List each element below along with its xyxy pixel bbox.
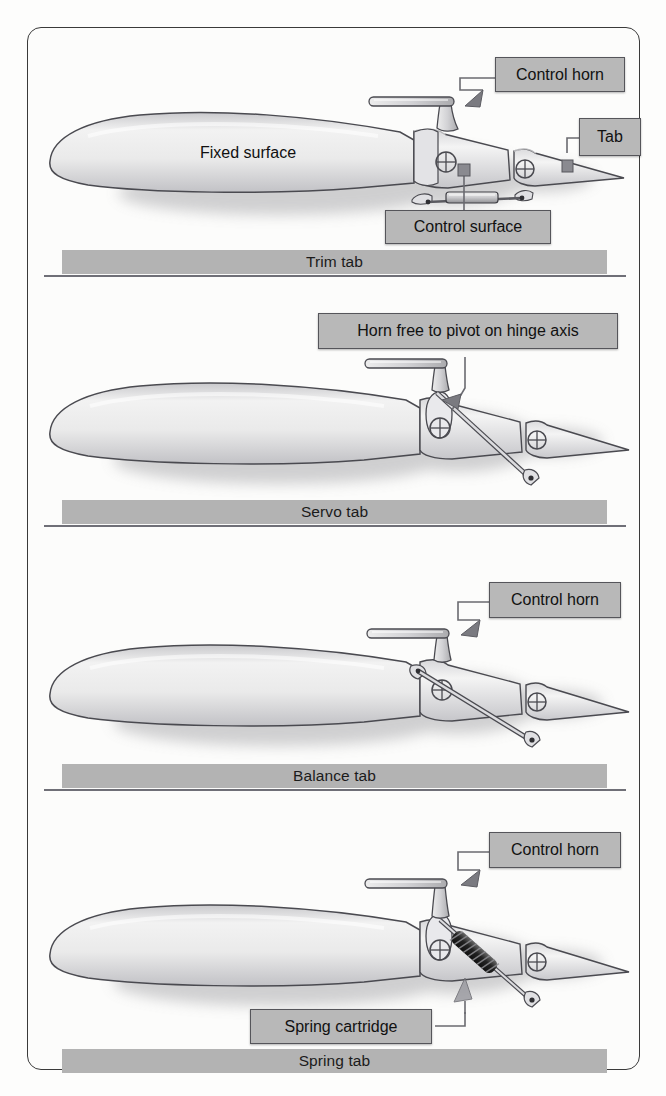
control-horn-bar xyxy=(365,879,447,888)
label-text: Tab xyxy=(597,128,623,146)
label-fixed-surface: Fixed surface xyxy=(200,144,296,162)
hinge-crosshair-icon xyxy=(516,160,534,178)
panel-divider xyxy=(44,275,626,277)
label-control-horn: Control horn xyxy=(495,57,625,92)
caption-text: Trim tab xyxy=(306,253,363,270)
label-spring-cartridge: Spring cartridge xyxy=(250,1009,432,1044)
label-text: Spring cartridge xyxy=(285,1018,398,1036)
hinge-crosshair-icon xyxy=(528,693,546,711)
panel-divider xyxy=(44,789,626,791)
caption-text: Balance tab xyxy=(293,767,376,784)
control-horn-post xyxy=(432,886,449,918)
figure-frame: Control horn Tab Fixed surface Control s… xyxy=(27,27,640,1070)
label-text: Fixed surface xyxy=(200,144,296,161)
tab-types-figure: Control horn Tab Fixed surface Control s… xyxy=(0,0,666,1096)
hinge-crosshair-icon xyxy=(430,418,450,438)
panel-servo-tab: Horn free to pivot on hinge axis Servo t… xyxy=(28,282,641,532)
label-text: Control horn xyxy=(511,841,599,859)
panel-divider xyxy=(44,525,626,527)
caption-balance-tab: Balance tab xyxy=(62,764,607,788)
control-horn-post xyxy=(432,366,449,392)
caption-servo-tab: Servo tab xyxy=(62,500,607,524)
caption-text: Spring tab xyxy=(299,1052,371,1069)
control-horn-bar xyxy=(367,629,449,638)
caption-text: Servo tab xyxy=(301,503,368,520)
caption-spring-tab: Spring tab xyxy=(62,1049,607,1073)
panel-trim-tab: Control horn Tab Fixed surface Control s… xyxy=(28,28,641,282)
control-horn-post xyxy=(437,104,458,131)
hinge-crosshair-icon xyxy=(436,152,456,172)
hinge-crosshair-icon xyxy=(528,953,546,971)
label-tab: Tab xyxy=(579,118,641,156)
control-horn-bar xyxy=(365,359,447,368)
label-text: Horn free to pivot on hinge axis xyxy=(357,322,578,340)
label-text: Control horn xyxy=(516,66,604,84)
caption-trim-tab: Trim tab xyxy=(62,250,607,274)
hinge-crosshair-icon xyxy=(430,940,450,960)
label-control-horn: Control horn xyxy=(489,582,621,618)
control-horn-bar xyxy=(369,97,454,106)
label-text: Control surface xyxy=(414,218,523,236)
label-control-horn: Control horn xyxy=(489,832,621,868)
label-text: Control horn xyxy=(511,591,599,609)
label-horn-pivot: Horn free to pivot on hinge axis xyxy=(318,313,618,349)
hinge-crosshair-icon xyxy=(528,431,546,449)
panel-balance-tab: Control horn Balance tab xyxy=(28,532,641,796)
label-control-surface: Control surface xyxy=(385,210,551,244)
balance-tab-illustration xyxy=(28,532,641,796)
panel-spring-tab: Control horn Spring cartridge Spring tab xyxy=(28,796,641,1071)
control-horn-post xyxy=(434,636,451,662)
